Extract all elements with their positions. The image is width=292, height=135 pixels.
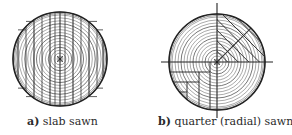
- board-cuts: [157, 0, 292, 122]
- caption-text: quarter (radial) sawn: [171, 115, 292, 128]
- caption-slab-sawn: a) slab sawn: [27, 115, 98, 129]
- caption-tag: a): [27, 115, 39, 128]
- diagonal-boards: [157, 0, 292, 122]
- caption-quarter-sawn: b) quarter (radial) sawn: [158, 115, 292, 129]
- caption-text: slab sawn: [39, 115, 97, 128]
- figure-quarter-sawn: b) quarter (radial) sawn: [146, 0, 292, 135]
- figure-slab-sawn: a) slab sawn: [0, 0, 146, 135]
- caption-tag: b): [158, 115, 171, 128]
